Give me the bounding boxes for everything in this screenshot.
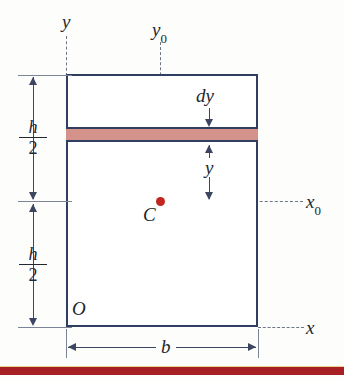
strip-distance-label: y (203, 158, 215, 177)
bottom-decorative-band (0, 367, 344, 375)
x0-axis-label: x0 (306, 192, 321, 216)
upper-half-height-label: h 2 (19, 118, 47, 158)
lower-half-height-label: h 2 (19, 245, 47, 285)
lower-half-height-bottom-arrowhead (29, 318, 37, 326)
upper-half-height-bottom-arrowhead (29, 192, 37, 200)
width-right-arrowhead (248, 343, 256, 351)
strip-distance-top-arrowhead (205, 145, 213, 153)
centroid-label: C (143, 205, 156, 224)
y-axis-label: y (62, 12, 70, 31)
upper-half-height-numerator: h (19, 118, 47, 136)
y0-axis-label-subscript: 0 (160, 31, 166, 46)
width-right-witness-tick (258, 329, 259, 358)
cross-section-figure: y y0 x0 x O C h 2 h 2 dy y b (0, 0, 344, 381)
lower-half-height-top-arrowhead (29, 204, 37, 212)
width-left-witness-tick (66, 329, 67, 358)
x-axis-dashed-line (258, 327, 304, 328)
x-axis-label: x (306, 318, 314, 337)
upper-half-height-bottom-witness-tick (18, 201, 72, 202)
y0-axis-label: y0 (152, 20, 167, 44)
strip-thickness-arrowhead (205, 119, 213, 127)
upper-half-height-top-arrowhead (29, 77, 37, 85)
strip-distance-bottom-arrowhead (205, 192, 213, 200)
centroid-dot (156, 197, 165, 206)
upper-half-height-top-witness-tick (18, 75, 72, 76)
width-label: b (156, 337, 176, 356)
strip-thickness-label: dy (196, 86, 214, 105)
lower-half-height-bottom-witness-tick (18, 327, 72, 328)
upper-half-height-denominator: 2 (19, 139, 47, 157)
x0-axis-label-subscript: 0 (314, 203, 320, 218)
lower-half-height-denominator: 2 (19, 266, 47, 284)
differential-strip (66, 127, 258, 142)
y-axis-dashed-line (66, 36, 67, 76)
lower-half-height-numerator: h (19, 245, 47, 263)
origin-label: O (72, 299, 86, 318)
width-left-arrowhead (68, 343, 76, 351)
